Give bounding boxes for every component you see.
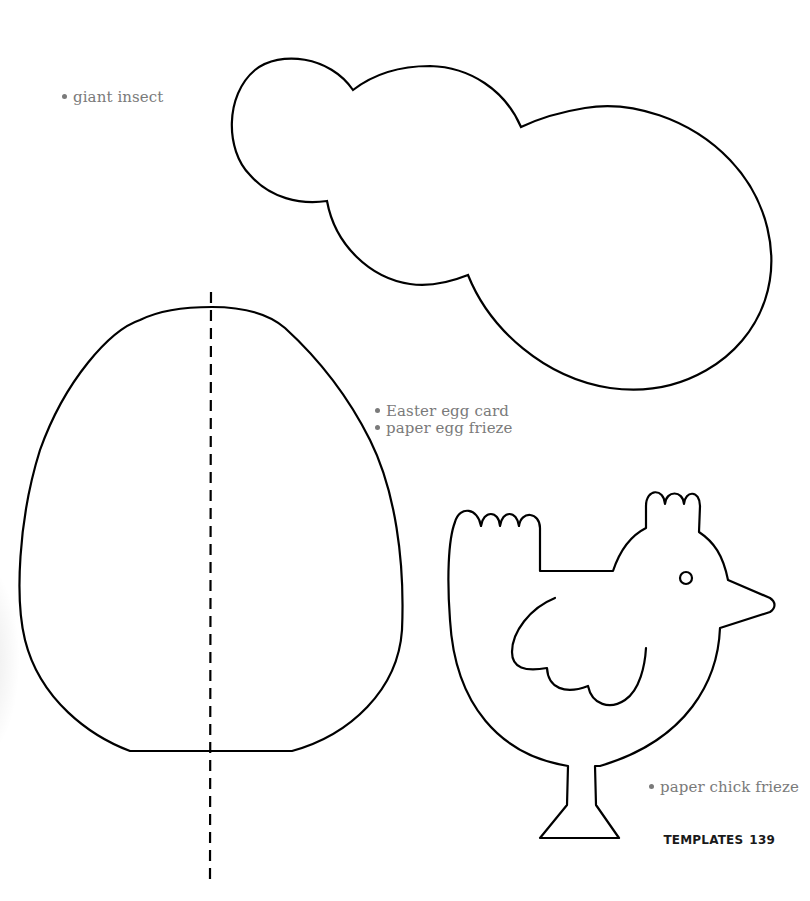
page-folio: TEMPLATES139 xyxy=(663,833,775,847)
egg-fold-line xyxy=(210,292,211,880)
bullet-icon xyxy=(649,784,654,789)
insect-uses-label: giant insect xyxy=(62,89,163,106)
egg-use-item: Easter egg card xyxy=(375,403,513,420)
chick-eye xyxy=(680,572,692,584)
chick-uses-label: paper chick frieze xyxy=(649,779,799,796)
bullet-icon xyxy=(375,425,380,430)
section-title: TEMPLATES xyxy=(663,833,743,847)
template-artwork xyxy=(0,0,810,901)
egg-use-item: paper egg frieze xyxy=(375,420,513,437)
insect-outline xyxy=(232,59,771,390)
egg-uses-list: Easter egg card paper egg frieze xyxy=(375,403,513,437)
bullet-icon xyxy=(62,94,67,99)
bullet-icon xyxy=(375,408,380,413)
page-number: 139 xyxy=(749,833,775,847)
template-page: giant insect Easter egg card paper egg f… xyxy=(0,0,810,901)
